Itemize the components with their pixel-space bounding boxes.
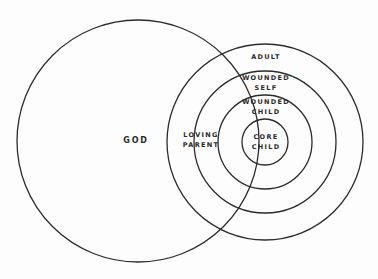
wounded-child-line-1: WOUNDED (242, 97, 290, 107)
loving-parent-line-1: LOVING (183, 130, 219, 140)
loving-parent-line-2: PARENT (183, 140, 219, 150)
god-label: GOD (123, 136, 148, 146)
wounded-self-line-1: WOUNDED (242, 73, 290, 83)
wounded-child-label: WOUNDED CHILD (242, 97, 290, 117)
core-child-line-1: CORE (252, 132, 281, 142)
loving-parent-label: LOVING PARENT (183, 130, 219, 150)
wounded-self-label: WOUNDED SELF (242, 73, 290, 93)
wounded-child-line-2: CHILD (242, 107, 290, 117)
adult-label: ADULT (251, 52, 281, 62)
wounded-self-line-2: SELF (242, 83, 290, 93)
core-child-label: CORE CHILD (252, 132, 281, 152)
core-child-line-2: CHILD (252, 142, 281, 152)
